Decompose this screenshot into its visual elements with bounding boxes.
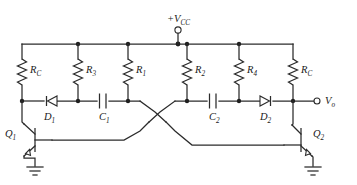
q1-collector-lead (22, 101, 24, 124)
output-label: Vo (325, 95, 335, 109)
d1-triangle (48, 96, 58, 106)
d1-label: D1 (43, 111, 55, 125)
q1-emitter-lead (24, 156, 35, 166)
output-terminal-group: Vo (314, 95, 335, 109)
r1-label: R1 (135, 64, 146, 78)
q2-label: Q2 (313, 128, 325, 142)
r3-label: R3 (85, 64, 96, 78)
r2-zigzag (183, 59, 192, 85)
rc-left-label: RC (29, 64, 41, 78)
resistor-r1: R1 (124, 44, 147, 101)
junction-dot-r3-mid (76, 99, 80, 103)
resistor-r2: R2 (183, 44, 206, 101)
diode-d1: D1 (43, 96, 57, 125)
cross-wire-to-q2-base (166, 122, 284, 145)
capacitor-c2: C2 (209, 94, 220, 125)
r3-zigzag (74, 59, 83, 85)
r4-zigzag (235, 59, 244, 85)
d2-label: D2 (259, 111, 272, 125)
capacitor-c1: C1 (99, 94, 110, 125)
rc-right-label: RC (300, 64, 312, 78)
q2-collector-lead (292, 101, 293, 125)
transistor-q2: Q2 (284, 101, 325, 166)
q1-label: Q1 (5, 128, 16, 142)
diode-d2: D2 (259, 96, 272, 125)
circuit-schematic: +VCC RC R3 R1 (0, 0, 357, 185)
d2-triangle (260, 96, 270, 106)
resistor-r3: R3 (74, 44, 97, 101)
r4-label: R4 (246, 64, 257, 78)
cross-coupling-links (52, 101, 284, 145)
q2-emitter-lead (312, 156, 313, 166)
cross-wire-to-q1-base (52, 122, 149, 140)
q2-collector-diagonal (292, 125, 301, 134)
top-supply-rail (22, 42, 293, 47)
c2-label: C2 (209, 111, 220, 125)
r1-zigzag (124, 59, 133, 85)
vcc-terminal-group: +VCC (167, 13, 190, 44)
junction-dot-r2-mid (185, 99, 189, 103)
junction-dot-r4-mid (237, 99, 241, 103)
vcc-terminal-circle (175, 27, 181, 33)
rc-left-zigzag (18, 59, 27, 85)
junction-dot-r1-mid (126, 99, 130, 103)
rc-right-zigzag (289, 59, 298, 85)
q1-collector-diagonal (24, 124, 35, 134)
c1-label: C1 (99, 111, 110, 125)
output-terminal-circle (314, 98, 320, 104)
resistor-r4: R4 (235, 44, 258, 101)
ground-left (27, 167, 43, 175)
r2-label: R2 (194, 64, 205, 78)
vcc-label: +VCC (167, 13, 190, 27)
resistor-rc-right: RC (289, 44, 313, 101)
mid-rail-left (20, 99, 140, 103)
resistor-rc-left: RC (18, 44, 42, 101)
ground-right (305, 167, 321, 175)
circuit-diagram-canvas: +VCC RC R3 R1 (0, 0, 357, 185)
